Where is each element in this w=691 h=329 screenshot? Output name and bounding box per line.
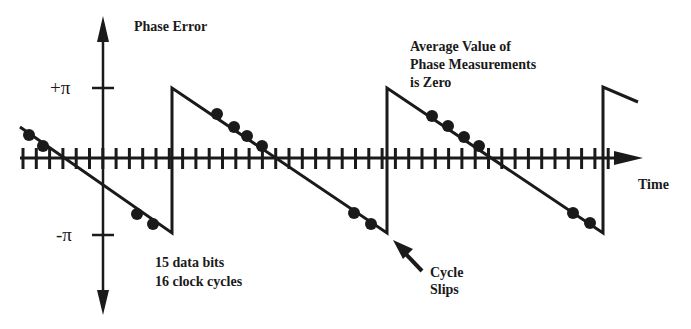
average-line-3: is Zero bbox=[410, 74, 536, 92]
slips-line-2: Slips bbox=[430, 281, 463, 298]
y-axis-title: Phase Error bbox=[134, 19, 207, 34]
cycle-slip-arrow-icon bbox=[393, 240, 422, 271]
phase-axis-down-arrowhead-icon bbox=[97, 290, 109, 315]
average-line-2: Phase Measurements bbox=[410, 56, 536, 74]
time-axis-label: Time bbox=[638, 177, 669, 192]
average-annotation: Average Value of Phase Measurements is Z… bbox=[410, 38, 536, 92]
measurement-dot bbox=[365, 218, 377, 230]
slips-line-1: Cycle bbox=[430, 264, 463, 281]
measurement-dot bbox=[426, 110, 438, 122]
measurement-dot bbox=[211, 108, 223, 120]
phase-error-diagram bbox=[0, 0, 691, 329]
minus-pi-label: -π bbox=[56, 225, 72, 245]
measurement-dot bbox=[256, 140, 268, 152]
time-axis-arrowhead-icon bbox=[614, 151, 643, 165]
measurement-dot bbox=[584, 217, 596, 229]
phase-axis-up-arrowhead-icon bbox=[97, 16, 109, 42]
measurement-dot bbox=[473, 140, 485, 152]
measurement-dot bbox=[37, 140, 49, 152]
measurement-dot bbox=[228, 121, 240, 133]
bits-line-2: 16 clock cycles bbox=[155, 272, 242, 291]
measurement-dot bbox=[442, 120, 454, 132]
measurement-dot bbox=[131, 208, 143, 220]
measurement-dot bbox=[567, 207, 579, 219]
measurement-dot bbox=[241, 130, 253, 142]
measurement-dot bbox=[147, 218, 159, 230]
measurement-dot bbox=[348, 207, 360, 219]
measurement-dot bbox=[458, 131, 470, 143]
bits-line-1: 15 data bits bbox=[155, 253, 242, 272]
bits-annotation: 15 data bits 16 clock cycles bbox=[155, 253, 242, 291]
plus-pi-label: +π bbox=[50, 78, 70, 98]
average-line-1: Average Value of bbox=[410, 38, 536, 56]
phase-axis bbox=[92, 16, 114, 315]
time-axis bbox=[20, 148, 643, 169]
measurement-dot bbox=[23, 129, 35, 141]
cycle-slips-annotation: Cycle Slips bbox=[430, 264, 463, 298]
